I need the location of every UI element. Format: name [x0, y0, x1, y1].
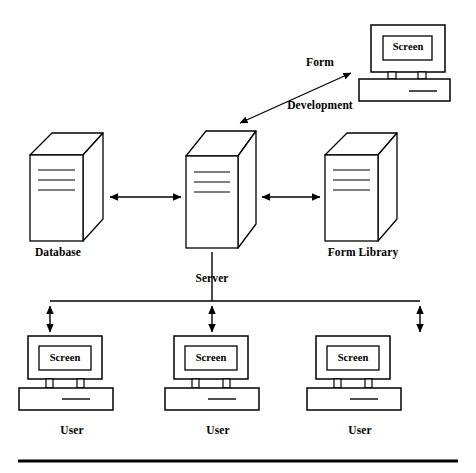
server-front-face	[186, 156, 238, 248]
diagram-canvas: Database Server Form Library Form Develo…	[0, 0, 476, 473]
node-database[interactable]	[30, 133, 103, 241]
label-database: Database	[8, 246, 108, 260]
label-screen-user-2: Screen	[174, 352, 248, 363]
node-form-development[interactable]	[359, 25, 450, 101]
node-user-3[interactable]	[307, 336, 401, 410]
node-user-1[interactable]	[19, 336, 113, 410]
label-form-development: Form Development	[274, 26, 366, 141]
user-2-stand-left	[192, 379, 199, 388]
node-server[interactable]	[186, 131, 256, 248]
form-development-base-unit	[359, 79, 450, 101]
form-development-stand-left	[388, 72, 396, 79]
form-development-stand-right	[418, 72, 426, 79]
user-1-stand-left	[46, 379, 53, 388]
user-2-stand-right	[223, 379, 230, 388]
diagram-graphics	[0, 0, 476, 473]
label-server: Server	[162, 272, 262, 286]
label-form-development-line-2: Development	[274, 98, 366, 112]
user-3-stand-right	[365, 379, 372, 388]
label-screen-form-development: Screen	[371, 41, 445, 52]
node-form-library[interactable]	[325, 133, 397, 241]
label-user-2: User	[168, 424, 268, 438]
label-form-library: Form Library	[308, 246, 418, 260]
form-library-front-face	[325, 155, 378, 241]
database-front-face	[30, 155, 83, 241]
label-user-1: User	[22, 424, 122, 438]
user-1-stand-right	[77, 379, 84, 388]
label-screen-user-3: Screen	[316, 352, 390, 363]
label-screen-user-1: Screen	[28, 352, 102, 363]
user-3-stand-left	[334, 379, 341, 388]
label-user-3: User	[310, 424, 410, 438]
label-form-development-line-1: Form	[274, 55, 366, 69]
node-user-2[interactable]	[165, 336, 259, 410]
